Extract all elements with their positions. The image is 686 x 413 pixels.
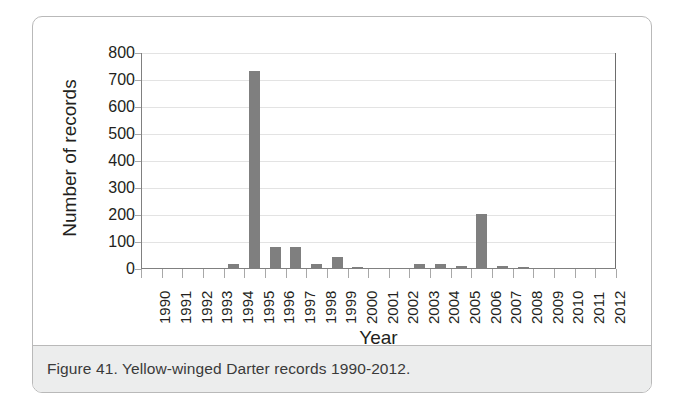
- x-tick-label: 2008: [529, 291, 544, 324]
- x-tick-label: 1996: [281, 291, 296, 324]
- y-tick-label: 100: [81, 233, 135, 251]
- y-axis-line: [141, 53, 142, 269]
- x-tick-label: 2004: [446, 291, 461, 324]
- bar-series: [141, 53, 616, 269]
- x-axis-tick-marks: [141, 269, 616, 278]
- x-tick-mark: [533, 269, 534, 278]
- y-tick-label: 400: [81, 152, 135, 170]
- x-tick-label: 2001: [385, 291, 400, 324]
- x-tick-mark: [286, 269, 287, 278]
- x-tick-mark: [409, 269, 410, 278]
- x-tick-mark: [513, 269, 514, 278]
- x-tick-label: 1997: [302, 291, 317, 324]
- x-tick-mark: [327, 269, 328, 278]
- x-tick-mark: [348, 269, 349, 278]
- x-tick-mark: [368, 269, 369, 278]
- x-tick-label: 1991: [178, 291, 193, 324]
- x-tick-mark: [224, 269, 225, 278]
- x-tick-label: 1992: [199, 291, 214, 324]
- x-tick-mark: [451, 269, 452, 278]
- x-tick-label: 2009: [550, 291, 565, 324]
- y-tick-label: 0: [81, 260, 135, 278]
- x-axis-tick-labels: 1990199119921993199419951996199719981999…: [141, 278, 616, 326]
- x-tick-mark: [430, 269, 431, 278]
- right-axis-line: [615, 53, 616, 269]
- bar-1996: [270, 247, 281, 269]
- plot-area: [141, 53, 616, 269]
- x-tick-label: 2011: [591, 292, 606, 324]
- y-tick-label: 700: [81, 71, 135, 89]
- x-tick-label: 2006: [488, 291, 503, 324]
- x-tick-mark: [616, 269, 617, 278]
- x-tick-label: 1998: [323, 291, 338, 324]
- x-tick-mark: [575, 269, 576, 278]
- x-tick-mark: [244, 269, 245, 278]
- bar-1997: [290, 247, 301, 269]
- y-tick-mark: [135, 161, 141, 162]
- x-tick-label: 2007: [508, 291, 523, 324]
- figure-caption-bar: Figure 41. Yellow-winged Darter records …: [33, 345, 651, 392]
- x-tick-label: 2010: [570, 291, 585, 324]
- bar-1995: [249, 71, 260, 269]
- x-tick-label: 1990: [157, 291, 172, 324]
- x-tick-mark: [471, 269, 472, 278]
- chart-plot-region: Number of records 0100200300400500600700…: [33, 17, 651, 347]
- x-tick-label: 1994: [240, 291, 255, 324]
- y-axis-title: Number of records: [59, 58, 81, 258]
- x-tick-label: 2002: [405, 291, 420, 324]
- x-tick-mark: [162, 269, 163, 278]
- y-tick-mark: [135, 188, 141, 189]
- y-tick-mark: [135, 242, 141, 243]
- y-axis-tick-labels: 0100200300400500600700800: [81, 53, 135, 269]
- y-tick-label: 800: [81, 44, 135, 62]
- y-tick-mark: [135, 215, 141, 216]
- y-tick-mark: [135, 80, 141, 81]
- y-tick-label: 500: [81, 125, 135, 143]
- y-tick-label: 200: [81, 206, 135, 224]
- x-tick-mark: [389, 269, 390, 278]
- x-tick-mark: [265, 269, 266, 278]
- x-tick-label: 1993: [219, 291, 234, 324]
- x-tick-mark: [595, 269, 596, 278]
- x-tick-mark: [554, 269, 555, 278]
- y-tick-label: 300: [81, 179, 135, 197]
- x-tick-label: 2003: [426, 291, 441, 324]
- figure-container: Number of records 0100200300400500600700…: [32, 16, 652, 393]
- y-tick-mark: [135, 53, 141, 54]
- x-tick-label: 1999: [343, 291, 358, 324]
- figure-caption: Figure 41. Yellow-winged Darter records …: [33, 360, 410, 378]
- y-tick-label: 600: [81, 98, 135, 116]
- y-tick-mark: [135, 134, 141, 135]
- x-tick-mark: [141, 269, 142, 278]
- x-tick-label: 1995: [261, 291, 276, 324]
- x-tick-label: 2012: [612, 291, 627, 324]
- x-tick-label: 2005: [467, 291, 482, 324]
- y-tick-mark: [135, 107, 141, 108]
- x-tick-mark: [492, 269, 493, 278]
- bar-2006: [476, 214, 487, 269]
- x-tick-mark: [203, 269, 204, 278]
- x-tick-mark: [182, 269, 183, 278]
- x-tick-label: 2000: [364, 291, 379, 324]
- x-tick-mark: [306, 269, 307, 278]
